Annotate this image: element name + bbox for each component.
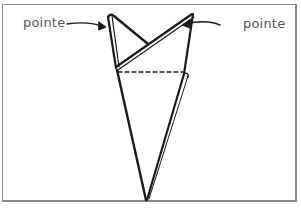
diagonal-fold <box>116 14 192 67</box>
cone-left-edge <box>117 70 146 200</box>
left-point-fold <box>108 17 116 68</box>
folding-diagram <box>0 0 301 208</box>
cone-right-edge <box>147 74 184 200</box>
arrow-left-icon <box>67 22 106 30</box>
